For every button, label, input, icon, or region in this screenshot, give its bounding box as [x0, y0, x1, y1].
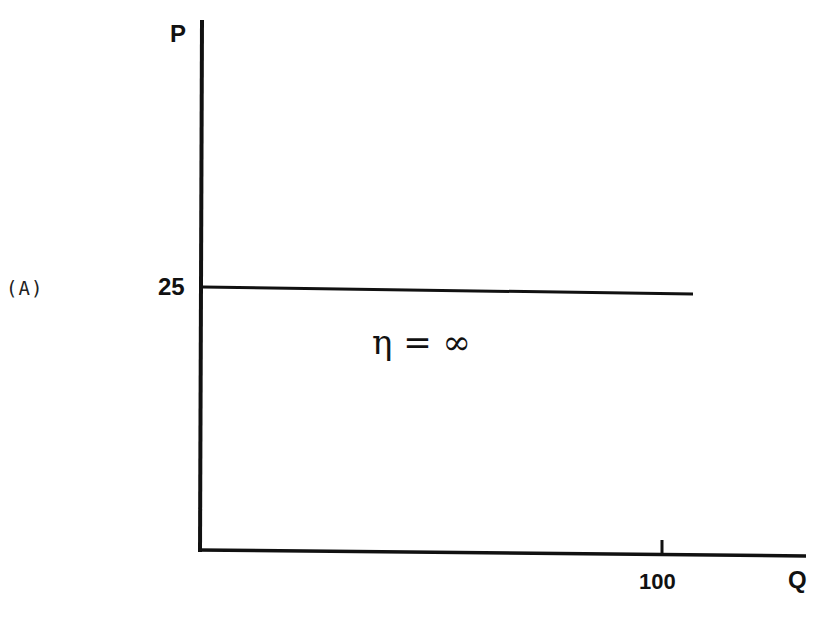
elasticity-annotation: η = ∞ — [372, 322, 471, 362]
y-axis — [200, 20, 202, 552]
x-axis-label: Q — [788, 566, 807, 594]
y-axis-label: P — [170, 20, 186, 48]
chart-canvas — [0, 0, 816, 619]
demand-line — [203, 287, 693, 294]
panel-label: (A) — [6, 277, 43, 299]
x-tick-label: 100 — [639, 569, 676, 595]
y-tick-label: 25 — [158, 273, 185, 301]
x-axis — [198, 550, 806, 556]
